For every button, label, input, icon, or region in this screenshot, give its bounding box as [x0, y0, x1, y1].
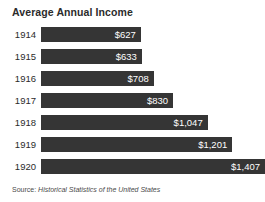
bar-value-1915: $633: [116, 49, 137, 64]
bar-track-1918: $1,047: [41, 115, 265, 130]
bar-track-1917: $830: [41, 93, 265, 108]
bar-value-1918: $1,047: [174, 115, 203, 130]
category-label-1918: 1918: [0, 115, 36, 130]
bar-track-1919: $1,201: [41, 137, 265, 152]
bar-row: 1920 $1,407: [0, 159, 265, 174]
average-annual-income-chart: Average Annual Income 1914 $627 1915 $63…: [0, 0, 265, 202]
bar-value-1920: $1,407: [231, 159, 260, 174]
source-prefix: Source:: [12, 186, 38, 193]
bar-1915: $633: [41, 49, 142, 64]
bar-value-1916: $708: [128, 71, 149, 86]
bar-row: 1916 $708: [0, 71, 265, 86]
source-title: Historical Statistics of the United Stat…: [38, 186, 160, 193]
bar-row: 1917 $830: [0, 93, 265, 108]
bar-row: 1918 $1,047: [0, 115, 265, 130]
bar-1919: $1,201: [41, 137, 232, 152]
chart-title: Average Annual Income: [12, 6, 133, 18]
bar-1916: $708: [41, 71, 154, 86]
bar-row: 1914 $627: [0, 27, 265, 42]
source-note: Source: Historical Statistics of the Uni…: [12, 186, 160, 193]
bar-track-1915: $633: [41, 49, 265, 64]
category-label-1917: 1917: [0, 93, 36, 108]
bar-track-1916: $708: [41, 71, 265, 86]
bar-1917: $830: [41, 93, 173, 108]
bar-value-1914: $627: [115, 27, 136, 42]
chart-plot-area: 1914 $627 1915 $633 1916 $708: [0, 27, 265, 181]
category-label-1914: 1914: [0, 27, 36, 42]
bar-row: 1919 $1,201: [0, 137, 265, 152]
bar-track-1914: $627: [41, 27, 265, 42]
category-label-1920: 1920: [0, 159, 36, 174]
category-label-1919: 1919: [0, 137, 36, 152]
bar-1914: $627: [41, 27, 141, 42]
bar-value-1917: $830: [147, 93, 168, 108]
bar-1920: $1,407: [41, 159, 265, 174]
bar-value-1919: $1,201: [198, 137, 227, 152]
bar-row: 1915 $633: [0, 49, 265, 64]
category-label-1916: 1916: [0, 71, 36, 86]
bar-1918: $1,047: [41, 115, 208, 130]
category-label-1915: 1915: [0, 49, 36, 64]
bar-track-1920: $1,407: [41, 159, 265, 174]
